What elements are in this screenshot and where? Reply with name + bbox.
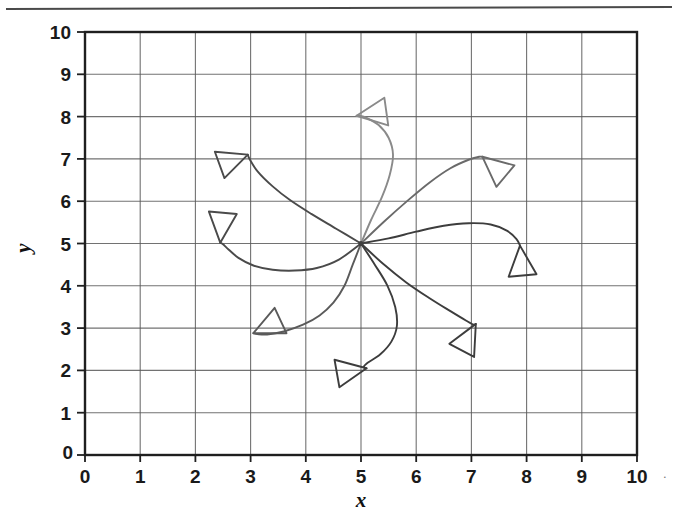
x-tick-label: 3 [245,466,256,487]
convergence-point [358,241,363,246]
x-tick-label: 0 [80,466,91,487]
x-tick-label: 2 [190,466,201,487]
scatter-trajectory-plot: 012345678910123456789100 x y . [0,0,678,521]
y-tick-label: 2 [60,360,71,381]
y-tick-label: 1 [60,403,71,424]
trajectory-curve [248,155,361,244]
y-tick-label: 9 [60,64,71,85]
trajectory-curve [361,223,520,245]
trajectory-curve [357,116,393,244]
x-tick-label: 7 [466,466,477,487]
y-tick-label: 3 [60,318,71,339]
y-tick-label: 10 [50,22,71,43]
arrowhead-marker-icon [482,157,514,187]
y-tick-label-zero: 0 [62,442,73,463]
y-tick-label: 7 [60,149,71,170]
y-tick-label: 4 [60,276,71,297]
arrowhead-markers [209,98,537,388]
trajectory-curve [361,244,476,325]
arrowhead-marker-icon [253,308,286,333]
arrowhead-marker-icon [509,246,537,277]
trajectory-curve [361,244,397,369]
x-tick-label: 9 [577,466,588,487]
y-tick-label: 6 [60,191,71,212]
x-tick-label: 10 [626,466,647,487]
y-tick-label: 8 [60,107,71,128]
arrowhead-marker-icon [209,212,237,243]
x-tick-label: 6 [411,466,422,487]
figure-root: 012345678910123456789100 x y . [0,0,678,521]
x-tick-label: 8 [521,466,532,487]
y-axis-title: y [11,243,35,256]
x-tick-label: 5 [356,466,367,487]
trajectory-curve [220,243,361,271]
arrowhead-marker-icon [215,152,248,178]
x-tick-label: 4 [301,466,312,487]
scan-artifact-dot: . [663,466,667,481]
arrowhead-marker-icon [335,360,367,388]
trajectory-curve [253,244,361,335]
y-tick-label: 5 [60,234,71,255]
x-tick-label: 1 [135,466,146,487]
tick-labels: 012345678910123456789100 [50,22,648,487]
x-axis-title: x [355,488,367,512]
